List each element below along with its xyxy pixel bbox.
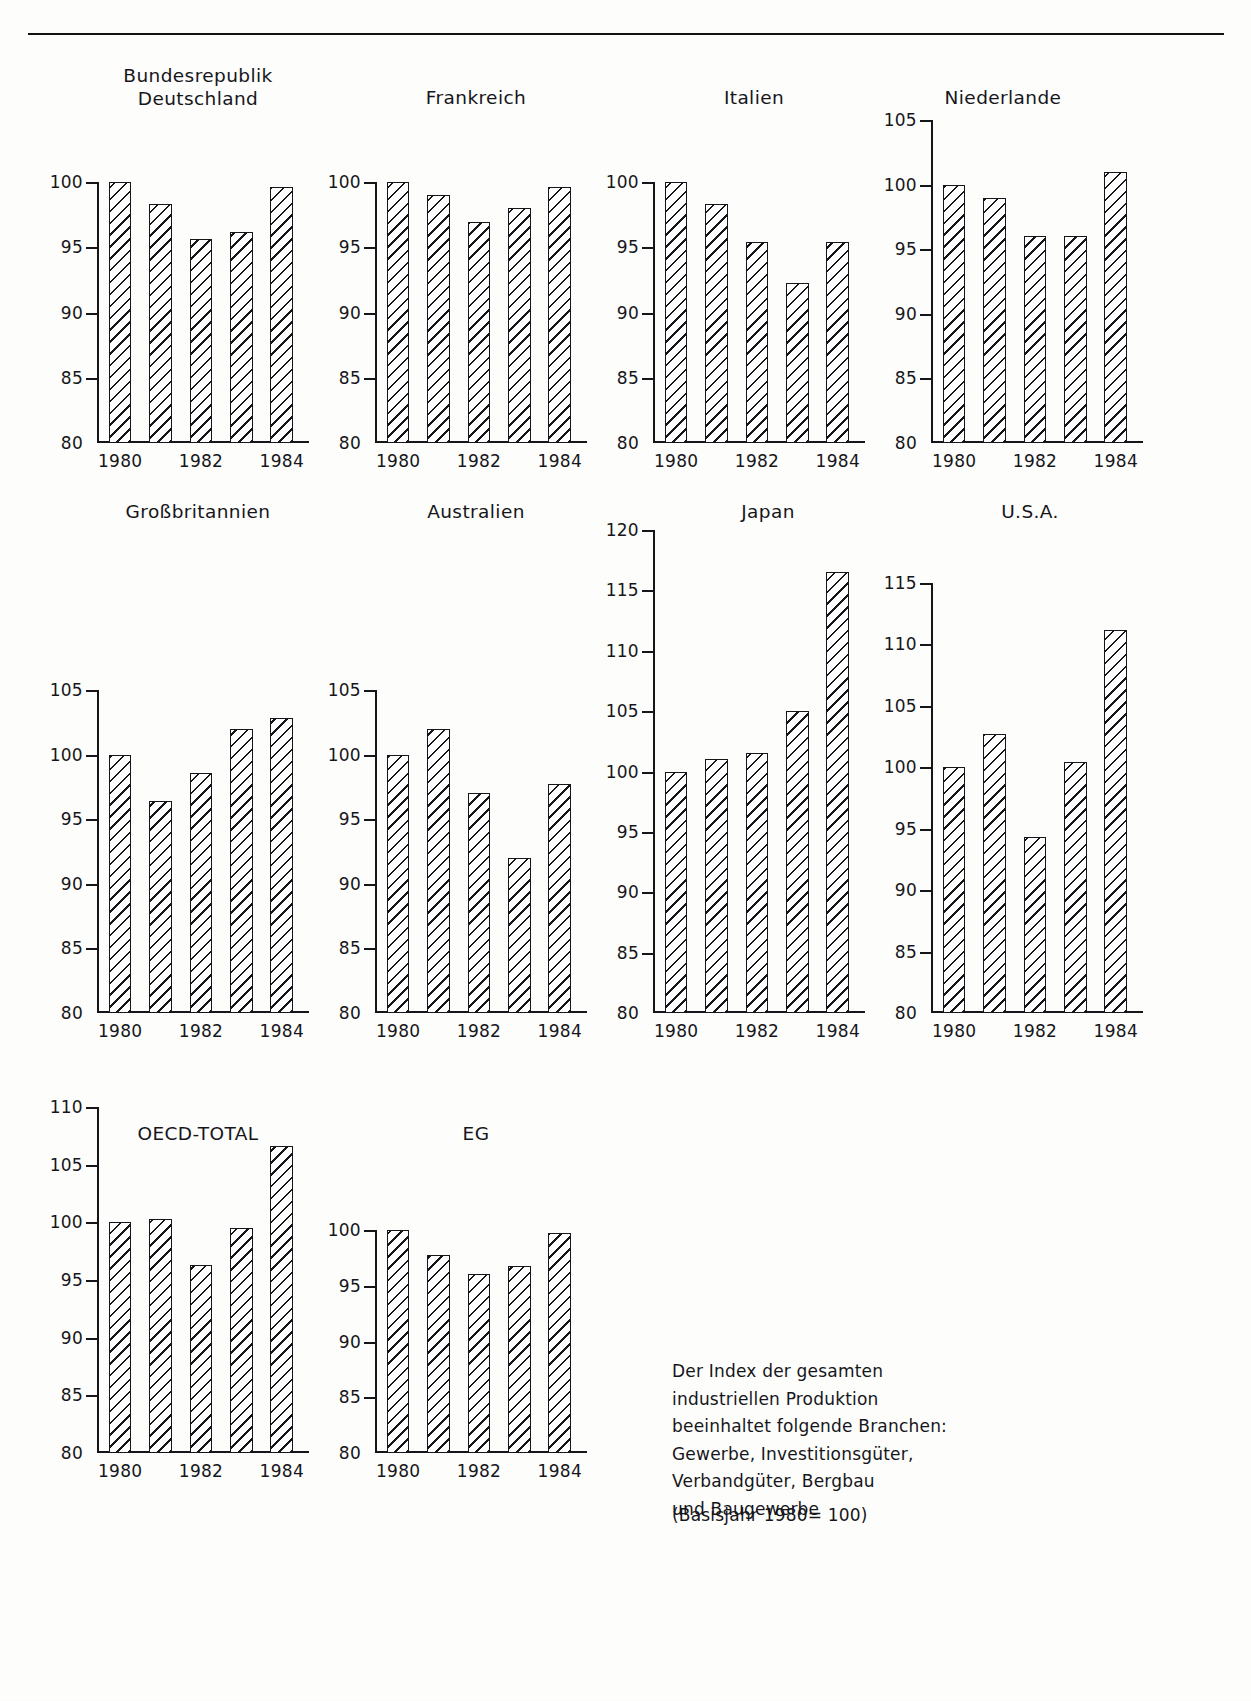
y-axis-tick-label: 105 — [11, 680, 83, 700]
y-axis-tick-label: 80 — [567, 433, 639, 453]
y-axis-tick — [86, 884, 97, 886]
figure-note-text: Der Index der gesamten industriellen Pro… — [672, 1358, 947, 1523]
x-axis-tick-label: 1982 — [457, 1461, 501, 1481]
y-axis-tick — [642, 772, 653, 774]
y-axis — [653, 530, 655, 1013]
x-axis-tick-label: 1982 — [1013, 451, 1057, 471]
y-axis-tick-label: 95 — [289, 809, 361, 829]
y-axis-tick-label: 100 — [11, 745, 83, 765]
y-axis-tick-label: 95 — [11, 809, 83, 829]
y-axis-tick-label: 85 — [289, 368, 361, 388]
x-axis-tick-label: 1980 — [932, 451, 976, 471]
plot-area: 80859095100198019821984 — [375, 182, 577, 443]
bar — [230, 1228, 253, 1453]
x-axis-tick-label: 1982 — [179, 1021, 223, 1041]
y-axis-tick-label: 105 — [845, 696, 917, 716]
y-axis-tick-label: 110 — [567, 641, 639, 661]
y-axis-tick-label: 80 — [11, 1443, 83, 1463]
y-axis-tick-label: 85 — [289, 938, 361, 958]
bar — [190, 773, 213, 1013]
x-axis-tick-label: 1984 — [260, 451, 304, 471]
y-axis — [375, 1230, 377, 1453]
y-axis-tick-label: 95 — [11, 237, 83, 257]
plot-area: 80859095100105198019821984 — [375, 690, 577, 1013]
bar — [1024, 837, 1047, 1013]
y-axis-tick — [642, 832, 653, 834]
plot-area: 80859095100105110198019821984 — [97, 1107, 299, 1453]
y-axis — [375, 690, 377, 1013]
bar — [943, 185, 966, 443]
y-axis-tick-label: 85 — [11, 368, 83, 388]
x-axis-tick-label: 1980 — [376, 451, 420, 471]
y-axis — [97, 182, 99, 443]
x-axis-tick-label: 1982 — [1013, 1021, 1057, 1041]
y-axis-tick — [364, 755, 375, 757]
y-axis-tick — [642, 313, 653, 315]
plot-area: 80859095100105198019821984 — [97, 690, 299, 1013]
x-axis-tick-label: 1982 — [457, 451, 501, 471]
x-axis-tick-label: 1980 — [376, 1461, 420, 1481]
bar — [1064, 236, 1087, 443]
bar — [468, 793, 491, 1013]
y-axis-tick-label: 95 — [567, 237, 639, 257]
x-axis-tick-label: 1984 — [260, 1461, 304, 1481]
y-axis-tick — [642, 247, 653, 249]
y-axis-tick-label: 105 — [11, 1155, 83, 1175]
y-axis-tick — [86, 1395, 97, 1397]
y-axis — [97, 690, 99, 1013]
x-axis-tick-label: 1980 — [376, 1021, 420, 1041]
y-axis-tick-label: 100 — [11, 1212, 83, 1232]
y-axis-tick-label: 115 — [845, 573, 917, 593]
y-axis — [97, 1107, 99, 1453]
x-axis-tick-label: 1984 — [1094, 451, 1138, 471]
y-axis-tick — [86, 313, 97, 315]
y-axis-tick-label: 105 — [845, 110, 917, 130]
y-axis-tick-label: 100 — [11, 172, 83, 192]
bar — [705, 759, 728, 1013]
y-axis-tick — [642, 530, 653, 532]
y-axis-tick-label: 85 — [289, 1387, 361, 1407]
y-axis-tick-label: 90 — [567, 882, 639, 902]
bar — [230, 232, 253, 443]
y-axis-tick-label: 85 — [11, 938, 83, 958]
x-axis-tick-label: 1980 — [654, 1021, 698, 1041]
y-axis-tick-label: 90 — [11, 1328, 83, 1348]
y-axis-tick — [364, 313, 375, 315]
y-axis — [931, 120, 933, 443]
y-axis-tick — [86, 819, 97, 821]
bar — [427, 195, 450, 443]
bar — [508, 858, 531, 1013]
bar — [387, 1230, 410, 1453]
y-axis-tick — [86, 1107, 97, 1109]
y-axis-tick — [364, 1230, 375, 1232]
y-axis-tick-label: 100 — [567, 172, 639, 192]
y-axis-tick-label: 95 — [289, 237, 361, 257]
y-axis — [931, 583, 933, 1013]
chart-title: Frankreich — [356, 86, 596, 109]
chart-title: Italien — [634, 86, 874, 109]
bar — [705, 204, 728, 443]
plot-area: 80859095100105110115198019821984 — [931, 583, 1133, 1013]
chart-title: Australien — [356, 500, 596, 523]
plot-area: 80859095100198019821984 — [97, 182, 299, 443]
y-axis-tick — [642, 378, 653, 380]
bar — [1104, 172, 1127, 443]
y-axis-tick-label: 85 — [845, 368, 917, 388]
y-axis-tick-label: 80 — [845, 433, 917, 453]
y-axis-tick-label: 100 — [289, 172, 361, 192]
bar — [149, 1219, 172, 1453]
bar — [1064, 762, 1087, 1013]
bar — [943, 767, 966, 1013]
y-axis-tick-label: 90 — [289, 874, 361, 894]
y-axis-tick-label: 85 — [845, 942, 917, 962]
y-axis-tick — [364, 247, 375, 249]
bar — [746, 242, 769, 443]
plot-area: 80859095100105110115120198019821984 — [653, 530, 855, 1013]
y-axis-tick-label: 110 — [845, 634, 917, 654]
y-axis-tick-label: 100 — [845, 757, 917, 777]
y-axis-tick — [920, 890, 931, 892]
y-axis-tick-label: 115 — [567, 580, 639, 600]
bar — [427, 1255, 450, 1453]
bar — [109, 1222, 132, 1453]
y-axis-tick — [364, 1342, 375, 1344]
